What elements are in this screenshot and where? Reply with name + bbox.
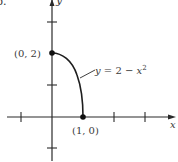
point-0-2 <box>49 50 55 56</box>
y-axis-label: y <box>55 0 63 7</box>
curve-label: y = 2 − x2 <box>94 64 147 76</box>
graph-figure: b. y x (0, 2) (1, 0) y = 2 − x2 <box>0 0 178 162</box>
x-axis <box>7 112 176 122</box>
curve-label-exp: 2 <box>142 64 146 72</box>
x-axis-label: x <box>170 119 176 130</box>
curve-label-leader <box>80 70 95 78</box>
y-axis-arrow-icon <box>50 0 55 6</box>
curve-label-eq: = 2 − <box>101 65 137 76</box>
y-axis <box>47 0 57 161</box>
part-label: b. <box>0 0 7 8</box>
point-1-0 <box>80 114 86 120</box>
point-b-label: (1, 0) <box>72 125 99 136</box>
point-a-label: (0, 2) <box>14 48 41 59</box>
